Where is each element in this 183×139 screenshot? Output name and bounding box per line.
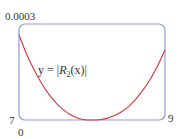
y-tick-bottom: 0 <box>18 126 24 138</box>
x-tick-right: 9 <box>168 112 174 124</box>
function-label-prefix: y = | <box>38 63 59 77</box>
chart: 0.0003 7 0 9 y = |R2(x)| <box>0 0 183 139</box>
x-tick-left: 7 <box>9 114 15 126</box>
series-line-abs-r2 <box>19 35 165 120</box>
function-label: y = |R2(x)| <box>38 63 87 79</box>
y-tick-top: 0.0003 <box>5 10 36 22</box>
function-label-suffix: (x)| <box>71 63 87 77</box>
